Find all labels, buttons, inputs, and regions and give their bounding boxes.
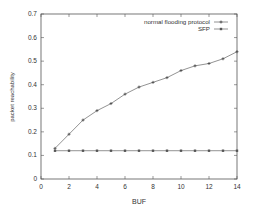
y-tick-label: 0.6 xyxy=(28,34,37,41)
data-point xyxy=(152,81,155,84)
x-tick-label: 0 xyxy=(39,183,43,190)
data-point xyxy=(82,150,84,152)
y-tick-label: 0.2 xyxy=(28,128,37,135)
data-point xyxy=(180,150,182,152)
x-tick-label: 12 xyxy=(205,183,213,190)
y-tick-label: 0.1 xyxy=(28,151,37,158)
y-tick-label: 0.5 xyxy=(28,57,37,64)
data-point xyxy=(96,150,98,152)
data-point xyxy=(236,50,239,53)
legend-label: SFP xyxy=(198,25,210,32)
x-axis-label: BUF xyxy=(132,198,146,205)
plot-frame xyxy=(41,14,237,179)
data-point xyxy=(166,150,168,152)
data-point xyxy=(208,150,210,152)
series-line xyxy=(55,52,237,149)
line-chart: 0246810121400.10.20.30.40.50.60.7 normal… xyxy=(0,0,264,213)
legend: normal flooding protocolSFP xyxy=(144,18,228,32)
legend-label: normal flooding protocol xyxy=(144,18,210,25)
data-point xyxy=(124,150,126,152)
plot-axes: 0246810121400.10.20.30.40.50.60.7 xyxy=(28,10,241,190)
x-tick-label: 6 xyxy=(123,183,127,190)
y-axis-label: packet reachability xyxy=(9,72,15,122)
data-point xyxy=(166,76,169,79)
data-point xyxy=(194,64,197,67)
data-point xyxy=(68,150,70,152)
data-point xyxy=(208,62,211,65)
x-tick-label: 14 xyxy=(233,183,241,190)
x-tick-label: 2 xyxy=(67,183,71,190)
y-tick-label: 0 xyxy=(33,175,37,182)
data-point xyxy=(110,150,112,152)
y-tick-label: 0.3 xyxy=(28,104,37,111)
x-tick-label: 8 xyxy=(151,183,155,190)
data-point xyxy=(236,150,238,152)
y-tick-label: 0.7 xyxy=(28,10,37,17)
x-tick-label: 10 xyxy=(177,183,185,190)
plot-series xyxy=(54,50,239,152)
data-point xyxy=(138,150,140,152)
data-point xyxy=(222,150,224,152)
x-tick-label: 4 xyxy=(95,183,99,190)
data-point xyxy=(138,86,141,89)
data-point xyxy=(194,150,196,152)
data-point xyxy=(152,150,154,152)
data-point xyxy=(222,57,225,60)
y-tick-label: 0.4 xyxy=(28,81,37,88)
data-point xyxy=(54,150,56,152)
data-point xyxy=(180,69,183,72)
